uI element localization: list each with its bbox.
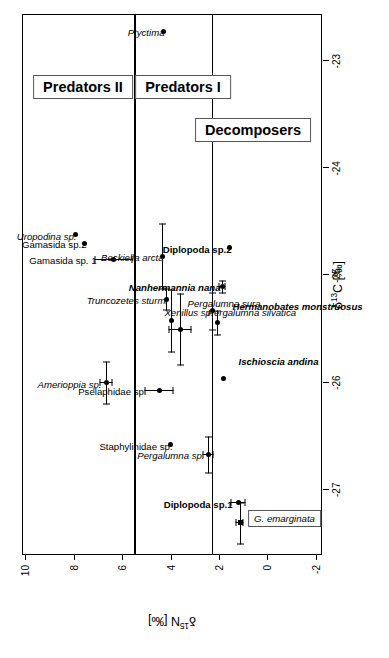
point-label: Gamasida sp.2 [22,239,87,250]
y-axis-tick [122,554,123,560]
data-point[interactable] [223,378,224,379]
x-axis-tick-label: -24 [331,161,342,175]
point-label: Diplopoda sp.1 [164,499,233,510]
point-label: Nanhermannia nana [129,282,221,293]
y-axis-title: δ15N [‰] [148,614,196,629]
y-axis-tick-label: 6 [117,565,128,571]
point-marker [206,452,211,457]
x-axis-title: δ13C [‰] [330,261,345,309]
x-axis-tick-label: -27 [331,483,342,497]
x-axis-tick [323,60,329,61]
point-label: Ischioscia andina [239,356,319,367]
inset-label-box: G. emarginata [248,510,321,527]
point-label: Xenillus sp. [165,307,214,318]
y-axis-tick [25,554,26,560]
point-marker [178,327,183,332]
y-axis-tick [316,554,317,560]
data-point[interactable] [171,320,172,321]
point-marker [157,388,162,393]
x-axis-tick [323,274,329,275]
point-label: Gamasida sp. 1 [29,255,96,266]
data-point[interactable] [222,286,223,287]
y-axis-tick [267,554,268,560]
y-axis-tick-label: 2 [213,565,224,571]
x-axis-tick [323,489,329,490]
group-label-box: Decomposers [195,118,311,142]
point-marker [220,284,225,289]
point-marker [215,320,220,325]
y-axis-tick-label: 0 [262,565,273,571]
data-point[interactable] [240,522,241,523]
point-label: Pergalumna sp. [137,450,204,461]
data-point[interactable] [159,390,160,391]
y-axis-tick [74,554,75,560]
data-point[interactable] [180,329,181,330]
y-axis-tick-label: 10 [20,565,31,576]
x-axis-tick [323,167,329,168]
y-axis-tick-label: -2 [310,565,321,574]
point-label: Truncozetes sturmi [87,295,168,306]
y-axis-tick [171,554,172,560]
point-label: Diplopoda sp.2 [163,244,232,255]
rotated-figure-wrapper: -27-26-25-24-231086420-2PtyctimaUropodin… [0,0,389,658]
x-axis-tick-label: -23 [331,54,342,68]
y-axis-tick-label: 4 [165,565,176,571]
point-label: Pselaphidae sp. [78,386,146,397]
group-label-box: Predators I [135,75,231,99]
data-point[interactable] [217,322,218,323]
point-label: Beckiella arcta [101,252,163,263]
y-axis-tick [219,554,220,560]
point-marker [238,520,243,525]
point-marker [169,318,174,323]
plot-area: -27-26-25-24-231086420-2PtyctimaUropodin… [22,14,322,555]
point-marker [221,376,226,381]
x-axis-tick-label: -26 [331,375,342,389]
point-label: Ptyctima [128,27,165,38]
data-point[interactable] [106,382,107,383]
y-axis-tick-label: 8 [68,565,79,571]
isotope-biplot-figure: -27-26-25-24-231086420-2PtyctimaUropodin… [0,0,389,658]
data-point[interactable] [208,454,209,455]
group-label-box: Predators II [33,75,133,99]
x-axis-tick [323,382,329,383]
point-marker [104,380,109,385]
